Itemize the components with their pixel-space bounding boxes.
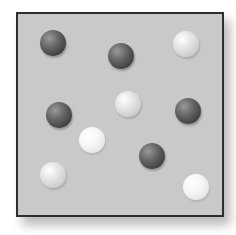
light-particle-icon (115, 91, 141, 117)
light-particle-icon (183, 174, 209, 200)
dark-particle-icon (139, 143, 165, 169)
dark-particle-icon (108, 43, 134, 69)
dark-particle-icon (46, 102, 72, 128)
particle-container-box (16, 12, 224, 217)
light-particle-icon (40, 162, 66, 188)
dark-particle-icon (175, 98, 201, 124)
light-particle-icon (173, 31, 199, 57)
dark-particle-icon (40, 30, 66, 56)
light-particle-icon (79, 127, 105, 153)
